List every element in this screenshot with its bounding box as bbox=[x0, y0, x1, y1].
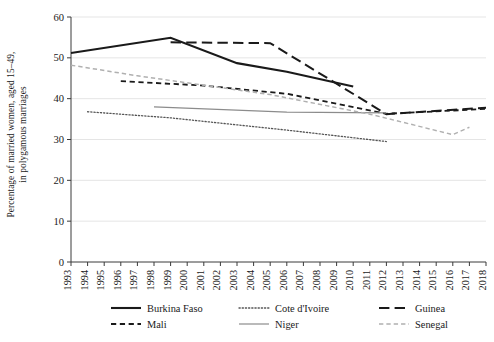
y-axis-tick-label: 40 bbox=[53, 93, 64, 104]
x-axis-tick-label: 2013 bbox=[394, 270, 405, 290]
x-axis-tick-labels: 1993199419951996199719981999200020012002… bbox=[62, 270, 488, 290]
y-axis-tick-label: 30 bbox=[53, 134, 64, 145]
legend-swatch-senegal bbox=[378, 319, 410, 329]
line-chart-plot: 0102030405060 19931994199519961997199819… bbox=[0, 0, 494, 300]
series-line-cote-d-ivoire bbox=[88, 112, 387, 142]
x-axis-tick-label: 2001 bbox=[195, 270, 206, 290]
x-axis-tick-label: 2003 bbox=[228, 270, 239, 290]
y-axis-title-line2: in polygamous marriages bbox=[18, 86, 28, 182]
x-axis-tick-label: 2010 bbox=[344, 270, 355, 290]
x-axis-tick-label: 2009 bbox=[328, 270, 339, 290]
series-line-mali bbox=[121, 81, 486, 114]
x-axis-tick-label: 2011 bbox=[361, 270, 372, 290]
legend-item-cote-divoire[interactable]: Cote d'Ivoire bbox=[238, 303, 378, 314]
legend-item-niger[interactable]: Niger bbox=[238, 319, 378, 330]
legend-label-burkina-faso: Burkina Faso bbox=[147, 303, 203, 314]
y-axis-tick-label: 10 bbox=[53, 216, 64, 227]
x-axis-tick-label: 2008 bbox=[311, 270, 322, 290]
gridlines bbox=[71, 17, 486, 221]
y-axis-tick-label: 20 bbox=[53, 175, 64, 186]
y-axis-tick-label: 60 bbox=[53, 12, 64, 23]
legend-item-senegal[interactable]: Senegal bbox=[378, 319, 480, 330]
legend-item-guinea[interactable]: Guinea bbox=[378, 303, 480, 314]
x-axis-tick-label: 2018 bbox=[477, 270, 488, 290]
series-line-guinea bbox=[171, 42, 486, 114]
series-line-niger bbox=[154, 107, 386, 113]
legend-swatch-burkina-faso bbox=[110, 303, 142, 313]
x-axis-tick-label: 1993 bbox=[62, 270, 73, 290]
legend-label-guinea: Guinea bbox=[415, 303, 445, 314]
x-axis-tick-label: 2007 bbox=[294, 270, 305, 290]
x-axis-tick-label: 2017 bbox=[460, 270, 471, 290]
legend-row: Burkina Faso Cote d'Ivoire Guinea bbox=[110, 300, 480, 316]
x-axis-tick-label: 1999 bbox=[162, 270, 173, 290]
x-axis-tick-label: 1996 bbox=[112, 270, 123, 290]
x-axis-tick-label: 2000 bbox=[178, 270, 189, 290]
legend-swatch-guinea bbox=[378, 303, 410, 313]
x-axis-tick-label: 1998 bbox=[145, 270, 156, 290]
legend-row: Mali Niger Senegal bbox=[110, 316, 480, 332]
y-axis-tick-label: 0 bbox=[59, 257, 64, 268]
legend-swatch-niger bbox=[238, 319, 270, 329]
x-axis-tick-label: 1997 bbox=[128, 270, 139, 290]
chart-container: Percentage of married women, aged 15–49,… bbox=[0, 0, 494, 342]
legend-label-cote-divoire: Cote d'Ivoire bbox=[275, 303, 329, 314]
legend-label-mali: Mali bbox=[147, 319, 167, 330]
legend-label-niger: Niger bbox=[275, 319, 299, 330]
y-axis-ticks bbox=[67, 17, 71, 262]
x-axis-tick-label: 2012 bbox=[377, 270, 388, 290]
y-axis-title: Percentage of married women, aged 15–49,… bbox=[0, 0, 36, 268]
x-axis-tick-label: 1994 bbox=[79, 270, 90, 290]
legend-item-burkina-faso[interactable]: Burkina Faso bbox=[110, 303, 238, 314]
x-axis-tick-label: 2015 bbox=[427, 270, 438, 290]
legend-swatch-cote-divoire bbox=[238, 303, 270, 313]
y-axis-title-line1: Percentage of married women, aged 15–49, bbox=[7, 51, 17, 217]
legend-item-mali[interactable]: Mali bbox=[110, 319, 238, 330]
x-axis-ticks bbox=[71, 262, 486, 266]
chart-legend: Burkina Faso Cote d'Ivoire Guinea Mali N… bbox=[110, 300, 480, 332]
series-line-senegal bbox=[71, 65, 469, 134]
legend-label-senegal: Senegal bbox=[415, 319, 448, 330]
x-axis-tick-label: 2005 bbox=[261, 270, 272, 290]
x-axis-tick-label: 2014 bbox=[411, 270, 422, 290]
x-axis-tick-label: 1995 bbox=[95, 270, 106, 290]
y-axis-tick-label: 50 bbox=[53, 52, 64, 63]
data-series-group bbox=[71, 38, 486, 142]
y-axis-tick-labels: 0102030405060 bbox=[53, 12, 64, 268]
x-axis-tick-label: 2004 bbox=[245, 270, 256, 290]
legend-swatch-mali bbox=[110, 319, 142, 329]
x-axis-tick-label: 2016 bbox=[444, 270, 455, 290]
x-axis-tick-label: 2006 bbox=[278, 270, 289, 290]
series-line-burkina-faso bbox=[71, 38, 353, 87]
x-axis-tick-label: 2002 bbox=[211, 270, 222, 290]
